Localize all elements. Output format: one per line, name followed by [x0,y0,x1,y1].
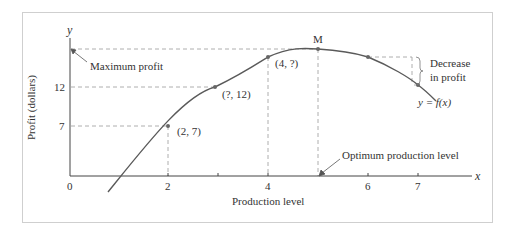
optimum-annotation: Optimum production level [342,150,459,161]
decrease-annotation-line1: Decrease [430,58,470,69]
x-axis-label: Production level [232,196,304,207]
x-axis-symbol: x [475,170,480,182]
x-tick-label-7: 7 [415,181,421,192]
point-label-4-q: (4, ?) [275,58,298,69]
max-profit-arrow-line [73,51,87,62]
y-tick-label-12: 12 [54,82,65,93]
curve-label: y = f(x) [418,97,451,108]
optimum-arrow-line [322,159,340,173]
y-tick-label-7: 7 [59,121,65,132]
x-tick-label-4: 4 [265,181,271,192]
point-label-2-7: (2, 7) [177,126,201,137]
point-4-q [266,55,270,59]
point-M [316,47,320,51]
point-q-12 [213,85,217,89]
decrease-annotation-line2: in profit [430,72,466,83]
y-axis-label: Profit (dollars) [26,63,37,153]
point-label-q-12: (?, 12) [222,89,251,100]
point-2-7 [166,124,170,128]
point-label-M: M [313,34,323,45]
decrease-brace [416,57,423,85]
max-profit-annotation: Maximum profit [90,61,163,72]
y-axis-symbol: y [67,24,72,36]
x-tick-label-0: 0 [67,181,73,192]
profit-diagram: y x Profit (dollars) Production level 0 … [0,0,515,225]
x-tick-label-2: 2 [165,181,171,192]
point-6 [366,55,370,59]
x-tick-label-6: 6 [365,181,371,192]
diagram-canvas [0,0,515,225]
